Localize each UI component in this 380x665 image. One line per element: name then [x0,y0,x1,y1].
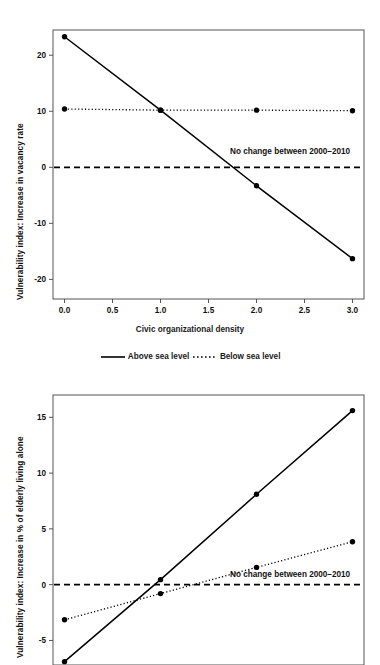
data-point [350,256,355,261]
y-tick-label: -10 [34,219,46,228]
data-point [254,107,259,112]
x-tick-label: 2.0 [251,306,263,315]
y-tick-label: -20 [34,275,46,284]
x-tick-label: 3.0 [347,306,359,315]
data-point [254,492,259,497]
plot-area-elderly: 151050-5No change between 2000–2010 [0,380,380,665]
x-tick-label: 2.5 [299,306,311,315]
figure-two-panel-line-charts: Vulnerability index: Increase in vacancy… [0,0,380,665]
x-tick-label: 0.5 [107,306,119,315]
legend-swatch-dotted [192,353,218,361]
data-point [350,408,355,413]
data-point [62,106,67,111]
y-tick-label: 10 [37,469,47,478]
series-line-below-sea-level [65,109,353,111]
x-axis-title-vacancy: Civic organizational density [0,325,380,334]
data-point [350,539,355,544]
data-point [158,591,163,596]
legend-label-below-sea-level: Below sea level [220,352,281,361]
data-point [158,107,163,112]
plot-frame [53,30,364,299]
y-axis-title-text: Vulnerability index: Increase in vacancy… [16,123,25,300]
series-line-above-sea-level [65,411,353,662]
y-tick-label: 0 [41,581,46,590]
y-tick-label: -5 [39,636,47,645]
y-tick-label: 20 [37,51,47,60]
annotation-no-change: No change between 2000–2010 [230,147,351,156]
legend-label-above-sea-level: Above sea level [128,352,189,361]
y-tick-label: 0 [41,163,46,172]
data-point [158,577,163,582]
data-point [254,183,259,188]
annotation-no-change: No change between 2000–2010 [230,570,351,579]
series-line-below-sea-level [65,542,353,620]
y-axis-title-vacancy: Vulnerability index: Increase in vacancy… [16,123,25,300]
data-point [62,617,67,622]
plot-frame [53,395,364,665]
data-point [62,659,67,664]
chart-panel-elderly-living-alone: Vulnerability index: Increase in % of el… [0,380,380,665]
y-tick-label: 10 [37,107,47,116]
y-tick-label: 15 [37,413,47,422]
x-tick-label: 1.0 [155,306,167,315]
data-point [350,108,355,113]
data-point [62,34,67,39]
x-tick-label: 0.0 [59,306,71,315]
legend-swatch-solid [100,353,126,361]
chart-panel-vacancy-rate: Vulnerability index: Increase in vacancy… [0,0,380,345]
chart-legend: Above sea level Below sea level [0,352,380,361]
y-tick-label: 5 [41,525,46,534]
y-axis-title-elderly: Vulnerability index: Increase in % of el… [16,436,25,658]
y-axis-title-text: Vulnerability index: Increase in % of el… [16,436,25,658]
x-tick-label: 1.5 [203,306,215,315]
plot-area-vacancy: 0.00.51.01.52.02.53.020100-10-20No chang… [0,0,380,320]
